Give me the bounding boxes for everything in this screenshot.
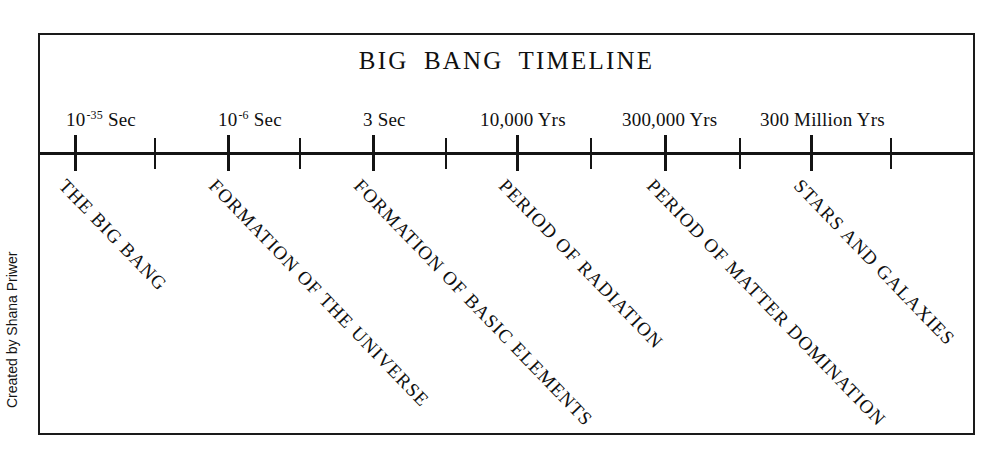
axis-tick-major (810, 135, 813, 171)
axis-tick-major (227, 135, 230, 171)
axis-label-unit-0: Sec (108, 109, 136, 130)
axis-tick-minor (890, 138, 892, 169)
timeline-axis-line (40, 152, 973, 155)
axis-tick-minor (590, 138, 592, 169)
timeline-event-label-5: STARS AND GALAXIES (789, 175, 959, 350)
axis-label-time-3: 10,000 Yrs (480, 109, 566, 131)
axis-label-time-2: 3 Sec (363, 109, 406, 131)
timeline-axis-area: 10-35 Sec 10-6 Sec 3 Sec 10,000 Yrs 300,… (40, 35, 973, 433)
timeline-event-label-0: THE BIG BANG (54, 175, 171, 295)
axis-tick-major (664, 135, 667, 171)
axis-label-base-0: 10 (66, 109, 85, 130)
axis-label-time-5: 300 Million Yrs (760, 109, 885, 131)
timeline-event-label-2: FORMATION OF BASIC ELEMENTS (349, 175, 597, 431)
axis-label-base-1: 10 (218, 109, 237, 130)
timeline-frame: BIG BANG TIMELINE 10-35 Sec 10-6 Sec 3 S… (38, 33, 975, 435)
timeline-event-label-3: PERIOD OF RADIATION (494, 175, 667, 353)
timeline-event-label-4: PERIOD OF MATTER DOMINATION (642, 175, 890, 431)
axis-tick-major (372, 135, 375, 171)
axis-label-exponent-1: -6 (238, 108, 248, 122)
axis-label-exponent-0: -35 (86, 108, 103, 122)
axis-tick-minor (739, 138, 741, 169)
axis-label-unit-1: Sec (254, 109, 282, 130)
axis-tick-major (516, 135, 519, 171)
axis-tick-minor (154, 138, 156, 169)
creator-credit: Created by Shana Priwer (4, 252, 20, 408)
axis-label-time-4: 300,000 Yrs (622, 109, 717, 131)
axis-tick-major (74, 135, 77, 171)
axis-tick-minor (445, 138, 447, 169)
axis-label-time-1: 10-6 Sec (218, 109, 282, 131)
axis-label-time-0: 10-35 Sec (66, 109, 136, 131)
axis-tick-minor (299, 138, 301, 169)
